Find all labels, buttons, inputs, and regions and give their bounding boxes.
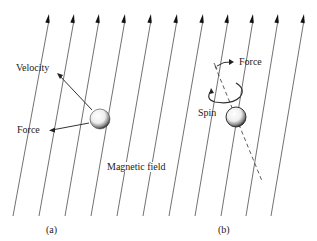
panel-b-particle (209, 59, 262, 181)
field-line (39, 20, 74, 216)
panel-b-label: (b) (218, 225, 230, 235)
field-line (169, 20, 203, 216)
diagram-canvas (0, 0, 317, 241)
field-line (117, 20, 151, 216)
field-line (13, 20, 49, 216)
spin-arrowhead-icon (209, 88, 214, 94)
field-arrowhead-icon (274, 14, 278, 23)
velocity-arrow (59, 75, 92, 110)
force-arrowhead-a-icon (49, 128, 55, 133)
force-arrowhead-b-icon (229, 59, 234, 65)
force-arrow-a (52, 123, 89, 130)
spin-label: Spin (198, 108, 216, 118)
force-arrow-b (217, 62, 231, 66)
field-arrowhead-icon (199, 14, 203, 23)
field-arrowhead-icon (224, 14, 228, 23)
field-line (143, 20, 177, 216)
field-line (271, 20, 304, 216)
field-arrowhead-icon (147, 14, 151, 23)
field-arrowhead-icon (95, 14, 99, 23)
field-arrowhead-icon (121, 14, 125, 23)
field-arrowhead-icon (70, 14, 74, 23)
magnetic-field-label: Magnetic field (106, 162, 167, 172)
field-arrowhead-icon (45, 14, 49, 23)
panel-a-particle (49, 73, 110, 133)
velocity-label: Velocity (16, 63, 49, 73)
field-arrowhead-icon (300, 14, 304, 23)
ball-b (226, 107, 246, 127)
force-label-b: Force (239, 57, 262, 67)
field-line (246, 20, 278, 216)
magnetic-field-lines (13, 14, 305, 216)
field-line (195, 20, 228, 216)
force-label-a: Force (17, 125, 40, 135)
panel-a-label: (a) (46, 225, 57, 235)
field-arrowhead-icon (249, 14, 253, 23)
field-arrowhead-icon (173, 14, 177, 23)
ball-a (90, 109, 110, 129)
